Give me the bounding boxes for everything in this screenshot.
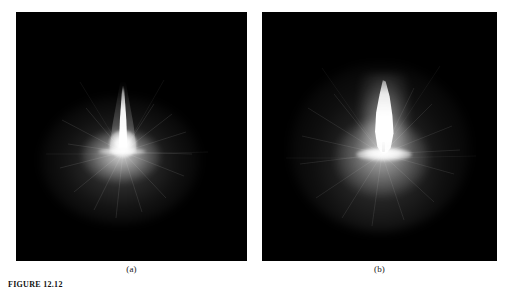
panel-label-b: (b) xyxy=(262,264,497,274)
image-panel-b[interactable] xyxy=(262,12,497,261)
figure-caption: FIGURE 12.12 xyxy=(8,280,408,290)
panel-a-candle-band xyxy=(98,148,146,155)
figure-root: (a) (b) FIGURE 12.12 xyxy=(0,0,515,290)
panel-a-scene xyxy=(16,12,247,261)
panel-b-scene xyxy=(262,12,497,261)
panel-label-a: (a) xyxy=(16,264,247,274)
image-panel-a[interactable] xyxy=(16,12,247,261)
